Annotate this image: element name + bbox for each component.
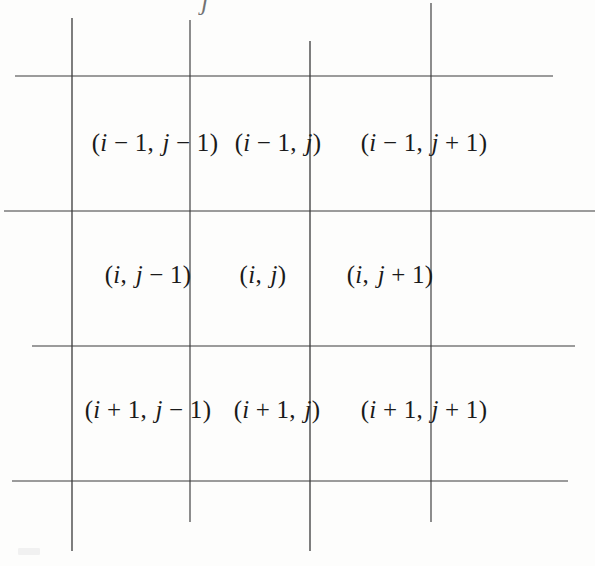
cell-label-i-j-minus-1: (i, j − 1): [105, 262, 192, 287]
cell-label-i-plus-1-j: (i + 1, j): [234, 397, 321, 422]
grid-lines: [0, 0, 595, 566]
cell-label-i-minus-1-j-minus-1: (i − 1, j − 1): [92, 130, 219, 155]
cell-label-i-plus-1-j-minus-1: (i + 1, j − 1): [85, 397, 212, 422]
cell-label-i-plus-1-j-plus-1: (i + 1, j + 1): [361, 397, 488, 422]
cell-label-i-j: (i, j): [240, 262, 287, 287]
cell-label-i-j-plus-1: (i, j + 1): [347, 262, 434, 287]
cell-label-i-minus-1-j-plus-1: (i − 1, j + 1): [361, 130, 488, 155]
cell-label-i-minus-1-j: (i − 1, j): [235, 130, 322, 155]
stencil-figure: (i − 1, j − 1) (i − 1, j) (i − 1, j + 1)…: [0, 0, 595, 566]
clipped-glyph-artifact: j: [201, 0, 208, 17]
scan-smudge-artifact: [18, 548, 40, 555]
